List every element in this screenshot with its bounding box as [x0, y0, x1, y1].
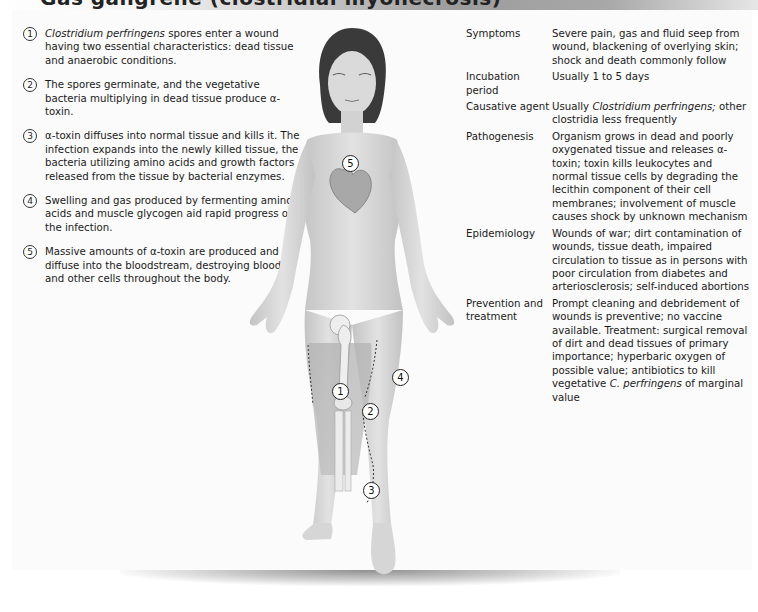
header-bar: Gas gangrene (clostridial myonecrosis) [0, 0, 758, 10]
step-number-badge: 1 [23, 27, 37, 41]
info-value: Usually Clostridium perfringens; other c… [552, 100, 751, 127]
marker-3-lower-leg: 3 [363, 482, 380, 499]
marker-4-swelling: 4 [392, 369, 409, 386]
info-row-epidemiology: Epidemiology Wounds of war; dirt contami… [466, 227, 751, 294]
step-number-badge: 5 [23, 245, 37, 259]
step-number-badge: 3 [23, 129, 37, 143]
human-body-illustration [225, 25, 465, 580]
info-row-symptoms: Symptoms Severe pain, gas and fluid seep… [466, 27, 751, 67]
info-label: Pathogenesis [466, 130, 552, 224]
organism-name: Clostridium perfringens [45, 28, 165, 39]
marker-5-heart: 5 [342, 155, 359, 172]
info-value: Prompt cleaning and debridement of wound… [552, 297, 751, 404]
disease-info-table: Symptoms Severe pain, gas and fluid seep… [466, 27, 751, 407]
page-title: Gas gangrene (clostridial myonecrosis) [40, 0, 501, 10]
info-value: Wounds of war; dirt contamination of wou… [552, 227, 751, 294]
body-figure: 5 1 4 2 3 [225, 25, 465, 580]
info-label: Causative agent [466, 100, 552, 127]
info-label: Incubation period [466, 70, 552, 97]
info-row-causative-agent: Causative agent Usually Clostridium perf… [466, 100, 751, 127]
info-label: Epidemiology [466, 227, 552, 294]
info-value: Usually 1 to 5 days [552, 70, 751, 97]
info-label: Prevention and treatment [466, 297, 552, 404]
info-label: Symptoms [466, 27, 552, 67]
info-value-text: Prompt cleaning and debridement of wound… [552, 298, 747, 389]
step-number-badge: 2 [23, 78, 37, 92]
marker-1-wound: 1 [332, 383, 349, 400]
step-number-badge: 4 [23, 194, 37, 208]
organism-name: Clostridium perfringens; [592, 101, 715, 112]
info-row-incubation: Incubation period Usually 1 to 5 days [466, 70, 751, 97]
marker-2-knee: 2 [362, 403, 379, 420]
info-value-text: Usually [552, 101, 592, 112]
info-value: Organism grows in dead and poorly oxygen… [552, 130, 751, 224]
info-row-pathogenesis: Pathogenesis Organism grows in dead and … [466, 130, 751, 224]
info-value: Severe pain, gas and fluid seep from wou… [552, 27, 751, 67]
organism-name: C. perfringens [610, 378, 682, 389]
info-row-prevention: Prevention and treatment Prompt cleaning… [466, 297, 751, 404]
